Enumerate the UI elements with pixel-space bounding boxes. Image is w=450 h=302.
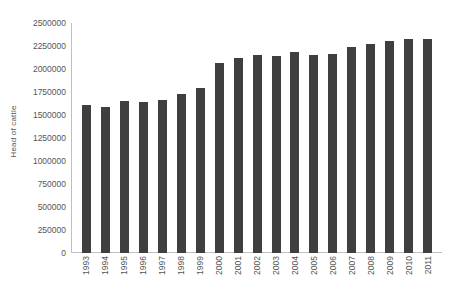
x-axis-tick: 1997 bbox=[157, 256, 167, 275]
y-axis-tick: 2500000 bbox=[33, 18, 66, 28]
bar[interactable] bbox=[234, 58, 243, 253]
bar-slot bbox=[96, 23, 115, 253]
bar[interactable] bbox=[328, 54, 337, 253]
x-axis-tick: 1995 bbox=[119, 256, 129, 275]
y-axis-tick: 750000 bbox=[38, 179, 66, 189]
x-axis-tick-slot: 2007 bbox=[342, 255, 361, 301]
x-axis-tick: 2007 bbox=[347, 256, 357, 275]
x-axis-tick: 2000 bbox=[214, 256, 224, 275]
bar-slot bbox=[134, 23, 153, 253]
x-axis-tick: 2001 bbox=[233, 256, 243, 275]
y-axis-tick: 1750000 bbox=[33, 87, 66, 97]
x-axis-tick-slot: 2000 bbox=[209, 255, 228, 301]
x-axis-tick: 1993 bbox=[81, 256, 91, 275]
x-axis-tick-slot: 1993 bbox=[76, 255, 95, 301]
x-axis-tick-slot: 1996 bbox=[133, 255, 152, 301]
x-axis-tick: 2003 bbox=[271, 256, 281, 275]
x-axis-tick-slot: 2006 bbox=[323, 255, 342, 301]
bar[interactable] bbox=[347, 47, 356, 253]
y-axis-tick: 0 bbox=[61, 248, 66, 258]
x-axis-tick-slot: 2008 bbox=[361, 255, 380, 301]
x-axis-tick-slot: 1998 bbox=[171, 255, 190, 301]
bar[interactable] bbox=[423, 39, 432, 253]
x-axis-tick-slot: 1995 bbox=[114, 255, 133, 301]
x-axis-tick: 2009 bbox=[385, 256, 395, 275]
x-axis-tick-slot: 2003 bbox=[266, 255, 285, 301]
y-axis-tick: 1250000 bbox=[33, 133, 66, 143]
bar[interactable] bbox=[290, 52, 299, 253]
x-axis-tick: 1996 bbox=[138, 256, 148, 275]
x-axis-tick: 1999 bbox=[195, 256, 205, 275]
bar[interactable] bbox=[272, 56, 281, 253]
x-axis-tick: 1998 bbox=[176, 256, 186, 275]
x-axis-tick-slot: 2004 bbox=[285, 255, 304, 301]
bar[interactable] bbox=[196, 88, 205, 253]
bar[interactable] bbox=[309, 55, 318, 253]
bar[interactable] bbox=[215, 63, 224, 253]
y-axis-tick: 500000 bbox=[38, 202, 66, 212]
bar[interactable] bbox=[366, 44, 375, 253]
y-axis-tick: 1500000 bbox=[33, 110, 66, 120]
bar[interactable] bbox=[177, 94, 186, 253]
bar-slot bbox=[418, 23, 437, 253]
bar-series bbox=[72, 23, 441, 253]
x-axis-tick-slot: 2010 bbox=[399, 255, 418, 301]
x-axis-tick-slot: 1999 bbox=[190, 255, 209, 301]
bar-slot bbox=[361, 23, 380, 253]
x-axis-tick-slot: 2002 bbox=[247, 255, 266, 301]
x-axis-tick-slot: 2005 bbox=[304, 255, 323, 301]
bar[interactable] bbox=[82, 105, 91, 253]
y-axis-tick: 250000 bbox=[38, 225, 66, 235]
x-axis-tick: 1994 bbox=[100, 256, 110, 275]
x-axis-tick-slot: 2001 bbox=[228, 255, 247, 301]
bar-slot bbox=[229, 23, 248, 253]
y-axis-tick: 2250000 bbox=[33, 41, 66, 51]
bar-slot bbox=[248, 23, 267, 253]
bar[interactable] bbox=[253, 55, 262, 253]
bar-slot bbox=[304, 23, 323, 253]
bar[interactable] bbox=[404, 39, 413, 253]
bar-slot bbox=[323, 23, 342, 253]
x-axis-tick: 2011 bbox=[423, 256, 433, 274]
plot-area bbox=[71, 23, 441, 253]
bar-chart: Head of cattle 0250000500000750000100000… bbox=[0, 0, 450, 302]
bar-slot bbox=[153, 23, 172, 253]
bar-slot bbox=[115, 23, 134, 253]
x-axis-tick: 2006 bbox=[328, 256, 338, 275]
x-axis-tick-slot: 1994 bbox=[95, 255, 114, 301]
bar-slot bbox=[399, 23, 418, 253]
bar-slot bbox=[172, 23, 191, 253]
bar[interactable] bbox=[158, 100, 167, 253]
bar[interactable] bbox=[385, 41, 394, 253]
bar[interactable] bbox=[139, 102, 148, 253]
bar-slot bbox=[210, 23, 229, 253]
x-axis-tick: 2010 bbox=[404, 256, 414, 275]
bar-slot bbox=[342, 23, 361, 253]
bar-slot bbox=[77, 23, 96, 253]
bar-slot bbox=[285, 23, 304, 253]
x-axis-tick-slot: 1997 bbox=[152, 255, 171, 301]
y-axis-tick-labels: 0250000500000750000100000012500001500000… bbox=[18, 23, 70, 253]
x-axis-tick-slot: 2011 bbox=[418, 255, 437, 301]
x-axis-tick: 2005 bbox=[309, 256, 319, 275]
bar[interactable] bbox=[101, 107, 110, 253]
x-axis-tick: 2004 bbox=[290, 256, 300, 275]
bar-slot bbox=[267, 23, 286, 253]
x-axis-tick: 2002 bbox=[252, 256, 262, 275]
x-axis-tick-labels: 1993199419951996199719981999200020012002… bbox=[71, 255, 441, 301]
x-axis-tick: 2008 bbox=[366, 256, 376, 275]
x-axis-tick-slot: 2009 bbox=[380, 255, 399, 301]
bar-slot bbox=[191, 23, 210, 253]
bar[interactable] bbox=[120, 101, 129, 253]
y-axis-tick: 2000000 bbox=[33, 64, 66, 74]
y-axis-title-label: Head of cattle bbox=[9, 105, 18, 157]
y-axis-tick: 1000000 bbox=[33, 156, 66, 166]
bar-slot bbox=[380, 23, 399, 253]
